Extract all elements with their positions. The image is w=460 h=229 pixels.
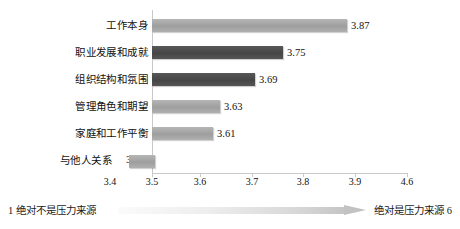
category-label-4: 家庭和工作平衡 xyxy=(8,128,148,140)
scale-left-label: 1 绝对不是压力来源 xyxy=(8,202,96,217)
category-label-0: 工作本身 xyxy=(8,20,148,32)
category-label-1: 职业发展和成就 xyxy=(8,47,148,59)
tick-label-2: 3.6 xyxy=(185,176,215,187)
bar-value-3: 3.63 xyxy=(224,101,242,112)
bar-5[interactable] xyxy=(129,155,155,168)
tick-label-4: 3.8 xyxy=(288,176,318,187)
bar-row: 管理角色和期望 3.63 xyxy=(0,93,460,120)
bar-row: 工作本身 3.87 xyxy=(0,12,460,39)
bar-value-1: 3.75 xyxy=(287,47,305,58)
tick-label-3: 3.7 xyxy=(237,176,267,187)
bar-value-0: 3.87 xyxy=(351,20,369,31)
bar-container-0: 3.87 xyxy=(152,18,369,33)
tick-label-0: 3.4 xyxy=(95,176,125,187)
bar-container-2: 3.69 xyxy=(152,72,277,87)
bar-row: 职业发展和成就 3.75 xyxy=(0,39,460,66)
bar-value-2: 3.69 xyxy=(259,74,277,85)
category-label-2: 组织结构和氛围 xyxy=(8,74,148,86)
bar-container-5 xyxy=(129,154,155,169)
gradient-arrow-right-icon xyxy=(118,205,368,216)
category-label-5: 与他人关系 xyxy=(60,155,112,167)
bar-value-4: 3.61 xyxy=(217,128,235,139)
tick-label-5: 3.9 xyxy=(340,176,370,187)
bar-row: 家庭和工作平衡 3.61 xyxy=(0,120,460,147)
scale-legend: 1 绝对不是压力来源 绝对是压力来源 6 xyxy=(0,200,460,220)
tick-label-6: 4.6 xyxy=(392,176,422,187)
bar-row: 组织结构和氛围 3.69 xyxy=(0,66,460,93)
tick-label-1: 3.5 xyxy=(137,176,167,187)
bar-4[interactable] xyxy=(152,127,213,140)
bar-0[interactable] xyxy=(152,19,347,32)
scale-right-label: 绝对是压力来源 6 xyxy=(374,202,452,217)
horizontal-bar-chart: 工作本身 3.87 职业发展和成就 3.75 组织结构和氛围 3.69 管理角色… xyxy=(0,0,460,229)
bar-container-3: 3.63 xyxy=(152,99,242,114)
bar-1[interactable] xyxy=(152,46,283,59)
category-label-3: 管理角色和期望 xyxy=(8,101,148,113)
bar-2[interactable] xyxy=(152,73,255,86)
bar-3[interactable] xyxy=(152,100,220,113)
bar-container-1: 3.75 xyxy=(152,45,305,60)
bar-row: 与他人关系 3.45 xyxy=(0,147,460,174)
bar-container-4: 3.61 xyxy=(152,126,235,141)
